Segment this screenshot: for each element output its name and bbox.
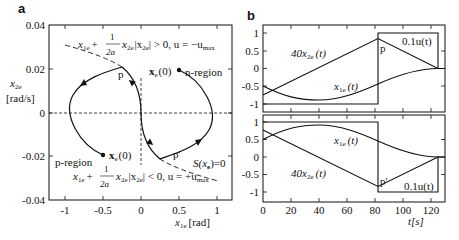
b-bottom-label-x2e: 40x2e(t) — [291, 167, 326, 181]
a-ytick: -0.04 — [22, 194, 45, 206]
b-xlabel: t[s] — [408, 215, 424, 227]
label-xe0-p: xe(0) — [109, 149, 132, 163]
b-top-label-p: p — [380, 42, 386, 54]
a-xtick: 0.5 — [172, 204, 186, 216]
a-ytick: 0 — [40, 107, 46, 119]
label-xe0-n: xe(0) — [149, 65, 172, 79]
b-bottom-label-p-prime: p′ — [380, 175, 388, 187]
b-bottom-ytick: -1 — [250, 186, 259, 198]
b-top-ytick: 0 — [254, 62, 260, 74]
svg-text:x1e+: x1e+ — [77, 38, 98, 52]
label-p-prime: p′ — [173, 148, 181, 160]
b-xtick: 0 — [260, 204, 266, 216]
trajectory-n-region — [141, 70, 212, 159]
b-top-label-u: 0.1u(t) — [402, 35, 432, 48]
figure: a 0.04 0.02 0 -0.02 -0.04 -1 -0.5 0 0.5 — [0, 0, 459, 240]
b-top-label-x2e: 40x2e(t) — [291, 47, 326, 61]
b-bottom-label-x1e: x1e(t) — [333, 134, 358, 148]
b-bottom-ytick: 0 — [254, 151, 260, 163]
label-p: p — [118, 68, 124, 80]
panel-b-bottom-plot: 1 0.5 0 -0.5 -1 0 20 40 60 80 100 120 t[… — [242, 115, 445, 227]
label-switching-curve: S(xe)=0 — [193, 157, 226, 171]
upper-region-condition: x1e+ 1 2a x2e|x2e| > 0, u = −umax — [77, 32, 215, 57]
svg-text:x1e+: x1e+ — [72, 170, 93, 184]
b-top-ytick: 1 — [254, 27, 260, 39]
initial-point-p — [101, 153, 105, 157]
b-top-label-x1e: x1e(t) — [333, 80, 358, 94]
a-xtick: -1 — [60, 204, 69, 216]
arrow-icon — [195, 139, 202, 146]
b-xtick: 80 — [370, 204, 382, 216]
b-top-ytick: -0.5 — [242, 80, 260, 92]
a-ytick: -0.02 — [22, 150, 45, 162]
svg-text:2a: 2a — [106, 47, 116, 57]
a-xtick: 0 — [138, 204, 144, 216]
b-xtick: 120 — [423, 204, 440, 216]
a-xtick: 1 — [214, 204, 220, 216]
arrow-icon — [127, 79, 136, 87]
a-ytick: 0.04 — [26, 19, 46, 31]
panel-label-a: a — [18, 1, 26, 16]
a-xtick: -0.5 — [94, 204, 112, 216]
b-xtick: 60 — [342, 204, 354, 216]
a-xlabel: x1e[rad] — [174, 216, 210, 230]
svg-text:2a: 2a — [100, 179, 110, 189]
arrow-icon — [80, 79, 87, 86]
b-bottom-ytick: 0.5 — [245, 133, 259, 145]
b-xtick: 40 — [314, 204, 326, 216]
label-p-region: p-region — [55, 156, 93, 168]
b-xtick: 20 — [286, 204, 298, 216]
b-top-ytick: 0.5 — [245, 45, 259, 57]
svg-text:x2e|x2e| < 0, u = +umax: x2e|x2e| < 0, u = +umax — [115, 170, 209, 184]
lower-region-condition: x1e+ 1 2a x2e|x2e| < 0, u = +umax — [72, 164, 209, 189]
panel-b-top-plot: 1 0.5 0 -0.5 -1 40x2e(t) x1e(t) 0.1u(t) … — [242, 25, 445, 112]
trajectory-p-region — [70, 67, 141, 155]
svg-text:1: 1 — [104, 164, 109, 174]
b-bottom-label-u: 0.1u(t) — [404, 180, 434, 193]
b-top-ytick: -1 — [250, 98, 259, 110]
a-ylabel-unit: [rad/s] — [6, 92, 35, 104]
b-bottom-ytick: 1 — [254, 116, 260, 128]
initial-point-n — [177, 68, 181, 72]
b-bottom-ytick: -0.5 — [242, 168, 260, 180]
panel-label-b: b — [247, 8, 255, 23]
a-ylabel: x2e — [9, 77, 22, 91]
a-ytick: 0.02 — [26, 63, 45, 75]
svg-text:x2e|x2e| > 0, u = −umax: x2e|x2e| > 0, u = −umax — [121, 38, 215, 52]
svg-text:1: 1 — [110, 32, 115, 42]
label-n-region: n-region — [185, 66, 223, 78]
panel-a-plot: 0.04 0.02 0 -0.02 -0.04 -1 -0.5 0 0.5 1 … — [6, 19, 232, 230]
